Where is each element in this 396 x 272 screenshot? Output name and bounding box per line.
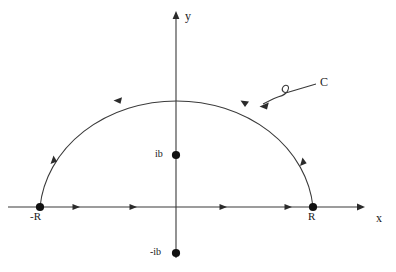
arc-direction-arrow-4-icon bbox=[51, 156, 58, 164]
x-axis-arrowhead-icon bbox=[357, 204, 365, 211]
x-axis-label: x bbox=[376, 212, 382, 224]
point-label-R: R bbox=[308, 211, 315, 222]
point-label-minus-ib: -ib bbox=[150, 247, 161, 257]
point-minus-ib-dot bbox=[172, 249, 180, 257]
contour-label-C: C bbox=[320, 76, 328, 88]
y-axis-label: y bbox=[185, 10, 191, 22]
x-axis-direction-arrow-2-icon bbox=[130, 204, 138, 210]
point-label-minus-R: -R bbox=[30, 211, 41, 222]
point-label-ib: ib bbox=[155, 149, 163, 159]
arc-direction-arrow-3-icon bbox=[114, 97, 123, 104]
x-axis-direction-arrow-1-icon bbox=[73, 204, 81, 210]
y-axis-arrowhead-icon bbox=[173, 11, 180, 19]
diagram-canvas: .ln{stroke:#3a3a3a;stroke-width:1.1;fill… bbox=[0, 0, 396, 272]
x-axis-direction-arrow-3-icon bbox=[220, 204, 228, 210]
x-axis-direction-arrow-4-icon bbox=[285, 204, 293, 210]
arc-direction-arrow-2-icon bbox=[241, 101, 250, 108]
arc-direction-arrow-1-icon bbox=[300, 158, 307, 167]
contour-diagram-svg: .ln{stroke:#3a3a3a;stroke-width:1.1;fill… bbox=[0, 0, 396, 272]
annotation-squiggly-arrow bbox=[263, 84, 316, 104]
point-ib-dot bbox=[172, 151, 180, 159]
